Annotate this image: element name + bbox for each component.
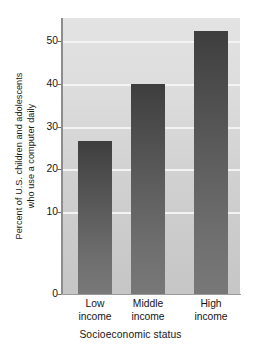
bar-middle-income [131,84,165,295]
y-tick-label-40: 40 [36,79,58,89]
x-axis-line [61,294,241,295]
plot-area [63,18,240,294]
x-tick-label-high-income: High income [179,298,243,323]
y-axis-title-line-1: Percent of U.S. children and adolescents [13,73,25,240]
y-tick-label-20: 20 [36,164,58,174]
y-tick-label-50: 50 [36,36,58,46]
y-axis-tick-labels: 50 40 30 20 10 0 [32,0,58,352]
x-tick-middle-line-1: Middle [116,298,180,311]
bar-low-income [78,141,112,294]
x-tick-high-line-1: High [179,298,243,311]
x-axis-title: Socioeconomic status [0,329,261,340]
y-tick-label-10: 10 [36,207,58,217]
y-tick-label-30: 30 [36,122,58,132]
bar-high-income-fill [194,31,228,294]
x-tick-label-middle-income: Middle income [116,298,180,323]
bar-chart-figure: Percent of U.S. children and adolescents… [0,0,261,352]
y-tick-label-0: 0 [36,289,58,299]
bar-middle-income-fill [131,84,165,295]
x-tick-high-line-2: income [179,311,243,324]
bar-low-income-fill [78,141,112,294]
bar-high-income [194,31,228,294]
x-axis-tick-labels: Low income Middle income High income [63,298,240,332]
x-tick-middle-line-2: income [116,311,180,324]
